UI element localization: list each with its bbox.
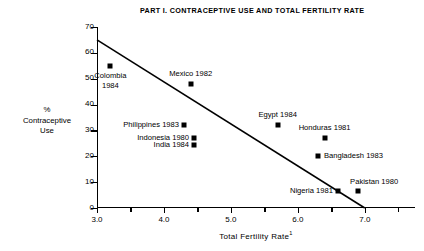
chart-title: PART I. CONTRACEPTIVE USE AND TOTAL FERT… [140,6,420,15]
x-tick-mark-4.0 [164,208,165,213]
data-point-label: Egypt 1984 [259,110,297,120]
y-tick-label: 30 [72,125,94,134]
data-point-label: Bangladesh 1983 [324,151,383,161]
x-tick-minor [331,208,332,212]
y-tick-label: 60 [72,47,94,56]
data-point-marker [188,81,193,86]
x-tick-mark-7.0 [365,208,366,213]
y-tick-label: 50 [72,73,94,82]
data-point-marker [275,123,280,128]
x-tick-mark-5.0 [231,208,232,213]
x-tick-minor [398,208,399,212]
x-axis-footnote-marker: 1 [289,230,292,236]
chart-figure: PART I. CONTRACEPTIVE USE AND TOTAL FERT… [0,0,424,251]
x-tick-label: 7.0 [359,215,370,224]
x-tick-label: 3.0 [91,215,102,224]
data-point-label: Colombia 1984 [94,71,126,91]
data-point-label: Pakistan 1980 [350,177,398,187]
y-tick-label: 20 [72,151,94,160]
x-tick-minor [264,208,265,212]
y-tick-label: 10 [72,177,94,186]
data-point-label: Philippines 1983 [123,120,179,130]
data-point-label: Honduras 1981 [299,123,351,133]
x-tick-label: 5.0 [225,215,236,224]
data-point-label: Mexico 1982 [169,69,212,79]
x-tick-minor [197,208,198,212]
plot-area: 010203040506070 3.04.05.06.07.0 Colombia… [97,27,415,208]
data-point-marker [356,189,361,194]
data-point-label: Nigeria 1981 [290,186,333,196]
y-tick-label: 70 [72,22,94,31]
y-tick-label: 0 [72,203,94,212]
data-point-marker [182,123,187,128]
x-tick-mark-6.0 [298,208,299,213]
x-tick-minor [130,208,131,212]
data-point-marker [315,154,320,159]
y-tick-label: 40 [72,99,94,108]
data-point-marker [192,142,197,147]
x-tick-label: 4.0 [158,215,169,224]
data-point-marker [108,63,113,68]
x-axis-title: Total Fertility Rate1 [97,230,415,241]
data-point-label: India 1984 [154,140,189,150]
data-point-marker [322,136,327,141]
x-tick-label: 6.0 [292,215,303,224]
x-tick-mark-3.0 [97,208,98,213]
data-point-marker [336,189,341,194]
x-axis-title-text: Total Fertility Rate [219,232,289,241]
data-point-marker [192,136,197,141]
